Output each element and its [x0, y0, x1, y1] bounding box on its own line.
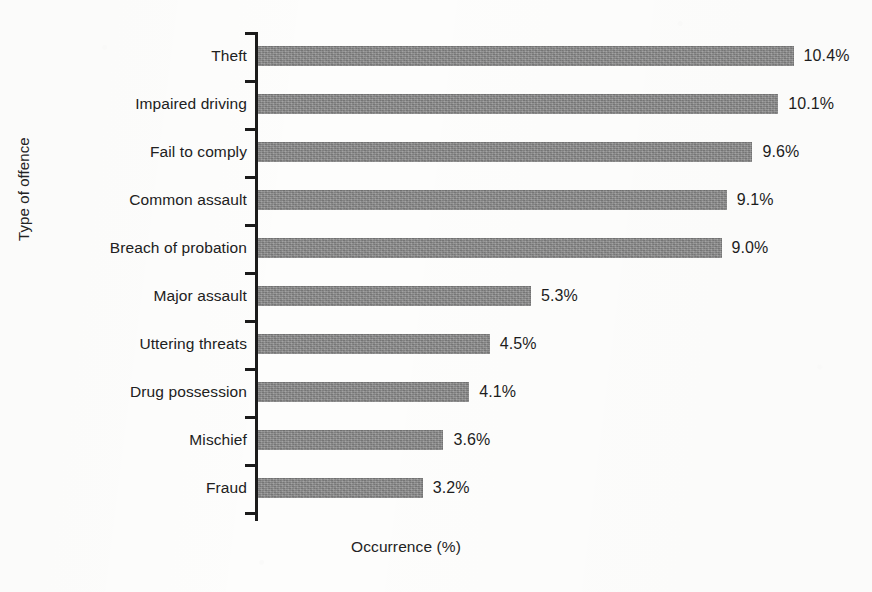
bar: [258, 46, 794, 66]
category-label: Fail to comply: [0, 128, 247, 176]
bar-value-label: 4.1%: [479, 383, 516, 401]
bar-value-label: 9.1%: [737, 191, 774, 209]
bar-and-value: 9.1%: [258, 176, 774, 224]
bar-and-value: 3.6%: [258, 416, 490, 464]
bar-row: Fraud3.2%: [0, 464, 872, 512]
x-axis-title: Occurrence (%): [256, 538, 556, 556]
bar-and-value: 5.3%: [258, 272, 578, 320]
bar-row: Theft10.4%: [0, 32, 872, 80]
chart-page: Type of offence Theft10.4%Impaired drivi…: [0, 0, 872, 592]
bar-value-label: 5.3%: [541, 287, 578, 305]
bar-value-label: 9.6%: [762, 143, 799, 161]
category-label: Uttering threats: [0, 320, 247, 368]
y-axis-tick: [245, 512, 256, 515]
bar-row: Drug possession4.1%: [0, 368, 872, 416]
bar-and-value: 9.0%: [258, 224, 768, 272]
category-label: Major assault: [0, 272, 247, 320]
category-label: Common assault: [0, 176, 247, 224]
bar: [258, 430, 443, 450]
category-label: Fraud: [0, 464, 247, 512]
bar-row: Impaired driving10.1%: [0, 80, 872, 128]
category-label: Breach of probation: [0, 224, 247, 272]
bar-value-label: 10.4%: [804, 47, 850, 65]
bar: [258, 382, 469, 402]
bar-row: Breach of probation9.0%: [0, 224, 872, 272]
bar: [258, 238, 722, 258]
bar: [258, 478, 423, 498]
category-label: Impaired driving: [0, 80, 247, 128]
bar: [258, 286, 531, 306]
bar-row: Common assault9.1%: [0, 176, 872, 224]
bar-row: Mischief3.6%: [0, 416, 872, 464]
bar: [258, 334, 490, 354]
bar-and-value: 10.4%: [258, 32, 849, 80]
bar-and-value: 4.1%: [258, 368, 516, 416]
bar-value-label: 4.5%: [500, 335, 537, 353]
category-label: Drug possession: [0, 368, 247, 416]
bar-and-value: 4.5%: [258, 320, 537, 368]
bar-row: Uttering threats4.5%: [0, 320, 872, 368]
bar-and-value: 10.1%: [258, 80, 834, 128]
category-label: Mischief: [0, 416, 247, 464]
bar-value-label: 10.1%: [788, 95, 834, 113]
bar-value-label: 3.2%: [433, 479, 470, 497]
bar-value-label: 3.6%: [453, 431, 490, 449]
bar-and-value: 3.2%: [258, 464, 470, 512]
category-label: Theft: [0, 32, 247, 80]
bar: [258, 94, 778, 114]
bar-row: Fail to comply9.6%: [0, 128, 872, 176]
bar-and-value: 9.6%: [258, 128, 799, 176]
bar-row: Major assault5.3%: [0, 272, 872, 320]
bar: [258, 142, 752, 162]
plot-area: Theft10.4%Impaired driving10.1%Fail to c…: [0, 0, 872, 592]
bar: [258, 190, 727, 210]
bar-value-label: 9.0%: [732, 239, 769, 257]
